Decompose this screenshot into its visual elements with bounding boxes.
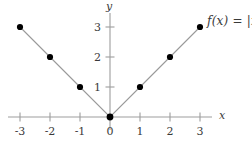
data-point--3-3 bbox=[17, 24, 23, 30]
x-tick-label-0: 0 bbox=[107, 126, 114, 137]
x-tick-label-2: 2 bbox=[167, 126, 174, 137]
x-axis-label: x bbox=[219, 110, 225, 121]
x-tick-label-1: 1 bbox=[137, 126, 144, 137]
x-tick-label--2: -2 bbox=[45, 126, 56, 137]
y-tick-label-2: 2 bbox=[87, 52, 101, 63]
y-axis-label: y bbox=[106, 1, 112, 12]
x-tick-label-3: 3 bbox=[197, 126, 204, 137]
x-tick-label--1: -1 bbox=[75, 126, 86, 137]
data-point--2-2 bbox=[47, 54, 53, 60]
function-annotation-label: f(x) = |x| bbox=[207, 15, 252, 27]
data-point-2-2 bbox=[167, 54, 173, 60]
x-tick-label--3: -3 bbox=[15, 126, 26, 137]
absolute-value-function-graph: -3 -2 -1 0 1 2 3 3 2 1 x y f(x) = |x| bbox=[0, 0, 252, 142]
data-point-1-1 bbox=[137, 84, 143, 90]
y-tick-label-1: 1 bbox=[87, 82, 101, 93]
data-point-0-0 bbox=[107, 114, 114, 121]
data-point--1-1 bbox=[77, 84, 83, 90]
y-tick-label-3: 3 bbox=[87, 22, 101, 33]
data-point-3-3 bbox=[197, 24, 203, 30]
